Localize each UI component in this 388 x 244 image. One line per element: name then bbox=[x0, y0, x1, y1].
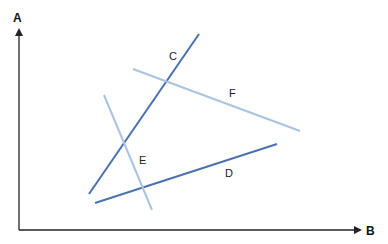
lines-layer: CDEF bbox=[89, 34, 300, 210]
line-f bbox=[133, 69, 300, 131]
line-c bbox=[89, 34, 199, 194]
x-axis-label: B bbox=[366, 224, 375, 238]
y-axis-label: A bbox=[13, 11, 22, 25]
line-e-label: E bbox=[139, 154, 146, 166]
line-d bbox=[95, 144, 277, 203]
line-c-label: C bbox=[169, 50, 177, 62]
line-f-label: F bbox=[229, 87, 236, 99]
line-d-label: D bbox=[225, 167, 233, 179]
line-diagram: CDEF A B bbox=[0, 0, 388, 244]
